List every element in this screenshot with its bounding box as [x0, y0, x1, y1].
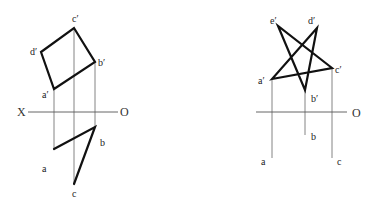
front-view-quadrilateral: [41, 28, 95, 89]
label-a-left: a: [42, 163, 47, 174]
label-a-right: a: [261, 156, 266, 167]
label-b-prime-right: b′: [311, 93, 318, 104]
top-view-polyline: [54, 127, 95, 184]
label-a-prime-right: a′: [258, 75, 265, 86]
label-b-prime-left: b′: [98, 57, 105, 68]
front-view-star: [272, 26, 332, 90]
label-a-prime-left: a′: [42, 89, 49, 100]
label-c-prime-left: c′: [72, 13, 79, 24]
label-b-left: b: [100, 137, 105, 148]
label-c-right: c: [337, 156, 342, 167]
right-figure: O e′ d′ c′ a′ b′ b a c: [256, 15, 361, 167]
label-c-prime-right: c′: [335, 64, 342, 75]
label-d-prime-right: d′: [308, 15, 315, 26]
left-figure: X O c′ d′ b′ a′ b a c: [17, 13, 129, 199]
label-c-left: c: [72, 188, 77, 199]
axis-label-x: X: [17, 105, 26, 119]
axis-label-o-right: O: [352, 106, 361, 120]
label-d-prime-left: d′: [30, 46, 37, 57]
axis-label-o-left: O: [120, 105, 129, 119]
label-b-right: b: [311, 131, 316, 142]
projection-drawing: X O c′ d′ b′ a′ b a c O e′ d′ c′ a′ b′ b…: [0, 0, 373, 210]
label-e-prime-right: e′: [270, 15, 277, 26]
